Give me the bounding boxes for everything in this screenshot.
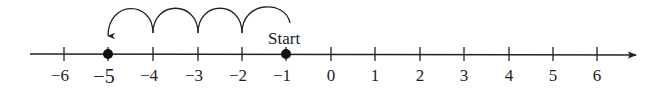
tick-label: −2 (229, 66, 247, 85)
tick-label: −1 (273, 66, 291, 85)
jump-arc (198, 8, 242, 33)
start-label: Start (268, 29, 300, 48)
jump-arc (153, 8, 198, 33)
tick-label: −5 (93, 65, 114, 87)
number-line-diagram: −6−5−4−3−2−10123456 Start (0, 0, 666, 96)
tick-label: −3 (185, 66, 203, 85)
tick-label: −6 (51, 66, 69, 85)
tick-label: −4 (140, 66, 159, 85)
tick-label: 3 (460, 66, 469, 85)
end-point (103, 49, 113, 59)
tick-label: 0 (327, 66, 336, 85)
tick-label: 6 (593, 66, 602, 85)
tick-label-group: −6−5−4−3−2−10123456 (51, 65, 601, 87)
tick-label: 1 (371, 66, 380, 85)
jump-arc-arrow (108, 9, 153, 36)
tick-label: 5 (549, 66, 558, 85)
axis-line (30, 54, 636, 55)
start-point (281, 49, 291, 59)
tick-label: 4 (505, 66, 514, 85)
jump-arcs (108, 7, 290, 36)
tick-label: 2 (416, 66, 425, 85)
